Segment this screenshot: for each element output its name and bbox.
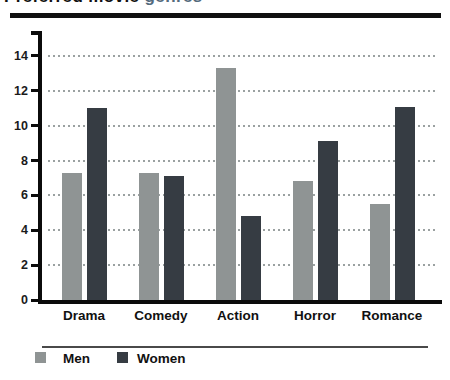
- y-tick-label-0: 0: [0, 294, 28, 306]
- y-tick-14: [31, 54, 38, 57]
- bar-men-horror: [293, 181, 313, 300]
- legend-swatch-women: [117, 352, 128, 363]
- legend-swatch-men: [35, 352, 46, 363]
- x-label-romance: Romance: [344, 308, 440, 323]
- y-tick-label-6: 6: [0, 189, 28, 201]
- bar-women-comedy: [164, 176, 184, 300]
- y-tick-label-4: 4: [0, 224, 28, 236]
- bar-women-drama: [87, 108, 107, 300]
- y-tick-10: [31, 124, 38, 127]
- bar-women-horror: [318, 141, 338, 300]
- legend-label-women: Women: [137, 351, 186, 366]
- y-tick-label-10: 10: [0, 120, 28, 132]
- y-tick-label-2: 2: [0, 259, 28, 271]
- gridline-6: [48, 194, 438, 196]
- bar-women-action: [241, 216, 261, 300]
- y-tick-0: [31, 299, 38, 302]
- y-tick-12: [31, 89, 38, 92]
- y-tick-6: [31, 194, 38, 197]
- y-axis-cap: [31, 31, 42, 35]
- bar-women-romance: [395, 107, 415, 300]
- y-axis-line: [38, 31, 42, 303]
- y-tick-label-8: 8: [0, 155, 28, 167]
- gridline-10: [48, 125, 438, 127]
- y-tick-label-14: 14: [0, 50, 28, 62]
- legend-divider: [42, 346, 428, 348]
- x-axis-line: [38, 300, 442, 304]
- y-tick-4: [31, 229, 38, 232]
- chart-figure: Preferred movie genres 02468101214DramaC…: [0, 0, 450, 380]
- bar-men-action: [216, 68, 236, 300]
- y-tick-label-12: 12: [0, 85, 28, 97]
- legend-label-men: Men: [63, 351, 90, 366]
- bar-men-drama: [62, 173, 82, 300]
- gridline-12: [48, 90, 438, 92]
- y-tick-2: [31, 264, 38, 267]
- gridline-14: [48, 55, 438, 57]
- y-tick-8: [31, 159, 38, 162]
- gridline-8: [48, 160, 438, 162]
- plot-area: 02468101214DramaComedyActionHorrorRomanc…: [0, 0, 450, 380]
- bar-men-romance: [370, 204, 390, 300]
- bar-men-comedy: [139, 173, 159, 300]
